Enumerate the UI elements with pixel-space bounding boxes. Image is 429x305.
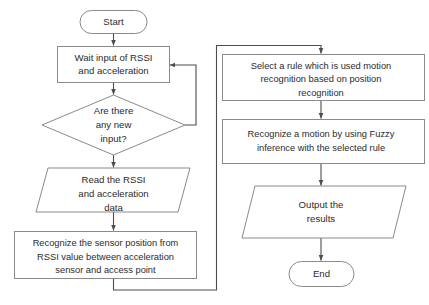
fuzzy-inference-label-line-1: Recognize a motion by using Fuzzy — [248, 129, 395, 139]
fuzzy-inference-box-shape — [223, 120, 425, 164]
decision-label-line-2: any new — [96, 119, 132, 130]
end-label: End — [313, 268, 330, 279]
wait-input-label-line-2: and acceleration — [78, 65, 148, 76]
node-start[interactable]: Start — [80, 11, 147, 34]
read-data-label-line-3: data — [104, 202, 123, 213]
recognize-position-label-line-2: RSSI value between acceleration — [37, 252, 174, 262]
node-decision-new-input[interactable]: Are there any new input? — [42, 95, 185, 155]
output-results-label-line-2: results — [307, 213, 335, 224]
flowchart-canvas: Start Wait input of RSSI and acceleratio… — [0, 0, 429, 305]
node-select-rule[interactable]: Select a rule which is used motion recog… — [223, 55, 425, 101]
flowchart-diagram: Start Wait input of RSSI and acceleratio… — [0, 0, 429, 305]
recognize-position-label-line-1: Recognize the sensor position from — [33, 238, 179, 248]
output-results-label-line-1: Output the — [299, 199, 344, 210]
select-rule-label-line-1: Select a rule which is used motion — [251, 61, 392, 71]
start-label: Start — [103, 16, 124, 27]
select-rule-label-line-2: recognition based on position — [261, 74, 382, 84]
node-fuzzy-inference[interactable]: Recognize a motion by using Fuzzy infere… — [223, 120, 425, 164]
select-rule-label-line-3: recognition — [298, 88, 343, 98]
node-wait-input[interactable]: Wait input of RSSI and acceleration — [58, 47, 170, 83]
node-recognize-position[interactable]: Recognize the sensor position from RSSI … — [15, 232, 197, 279]
node-output-results[interactable]: Output the results — [242, 186, 406, 238]
decision-label-line-3: input? — [100, 133, 126, 144]
wait-input-label-line-1: Wait input of RSSI — [74, 52, 152, 63]
fuzzy-inference-label-line-2: inference with the selected rule — [257, 143, 385, 153]
decision-label-line-1: Are there — [94, 105, 133, 116]
read-data-label-line-1: Read the RSSI — [82, 174, 146, 185]
node-read-data[interactable]: Read the RSSI and acceleration data — [36, 168, 190, 213]
edge-decision-loop-to-wait-input — [170, 65, 196, 125]
recognize-position-label-line-3: sensor and access point — [55, 265, 156, 275]
node-end[interactable]: End — [289, 262, 354, 287]
read-data-label-line-2: and acceleration — [78, 188, 148, 199]
